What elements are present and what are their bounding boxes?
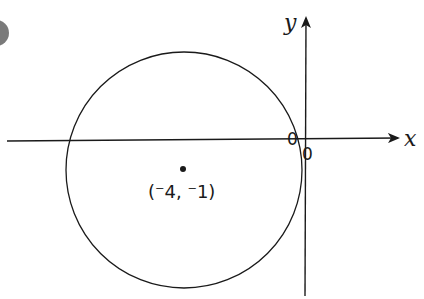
center-coordinate-label: (⁻4, ⁻1) bbox=[148, 181, 215, 202]
diagram-canvas: y x 0 0 (⁻4, ⁻1) bbox=[0, 0, 424, 299]
center-point bbox=[180, 166, 186, 172]
x-axis-label: x bbox=[404, 126, 417, 151]
origin-label-x: 0 bbox=[287, 129, 298, 149]
question-badge bbox=[0, 20, 9, 46]
origin-label-y: 0 bbox=[302, 144, 313, 164]
y-axis-label: y bbox=[283, 10, 297, 35]
x-axis bbox=[7, 138, 398, 141]
